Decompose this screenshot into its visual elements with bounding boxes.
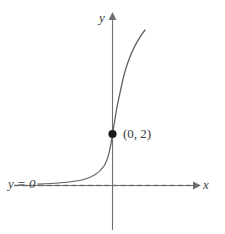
y-axis-arrow-icon [109, 12, 117, 20]
x-axis-label: x [203, 178, 209, 191]
exponential-curve [38, 30, 145, 184]
graph-canvas [0, 0, 225, 234]
point-label: (0, 2) [123, 127, 151, 140]
exponential-function-graph: y x y = 0 (0, 2) [0, 0, 225, 234]
point-marker-0-2 [108, 130, 116, 138]
asymptote-label: y = 0 [8, 177, 36, 190]
y-axis-label: y [99, 11, 105, 24]
x-axis-arrow-icon [193, 182, 201, 190]
